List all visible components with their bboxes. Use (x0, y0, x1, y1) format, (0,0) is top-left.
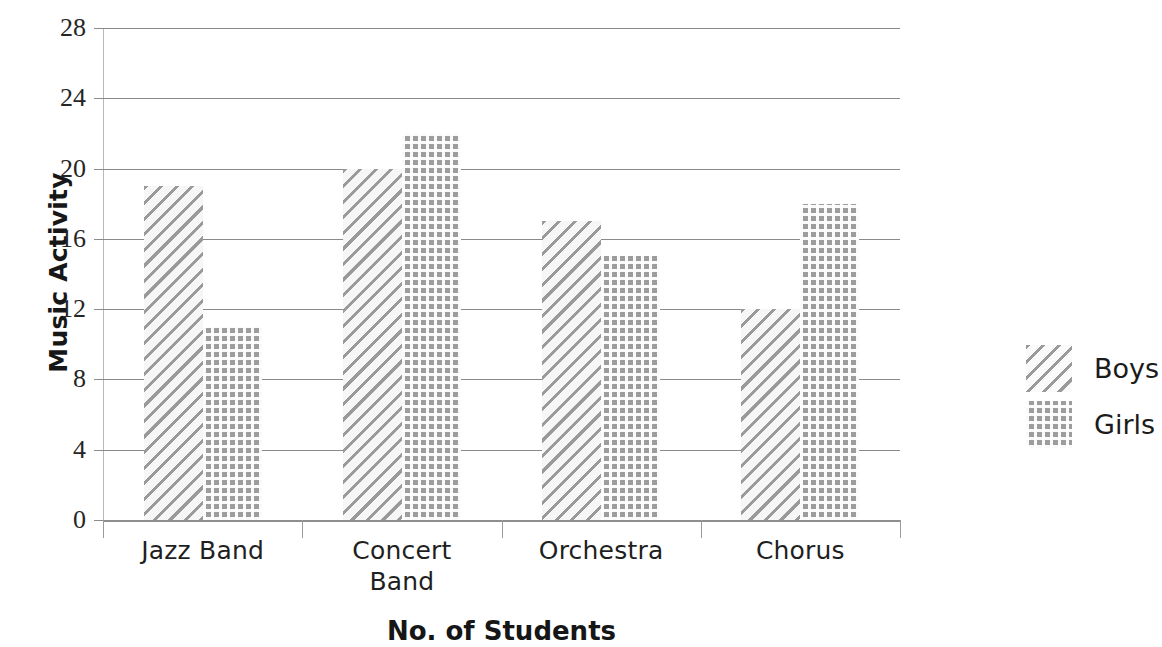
gridline (103, 28, 900, 29)
legend-swatch-boys-icon (1026, 345, 1072, 392)
x-tick-mark (900, 520, 901, 538)
y-tick-label: 12 (28, 296, 86, 322)
gridline (103, 98, 900, 99)
y-tick-mark (94, 379, 104, 380)
x-tick-label-line: Concert (302, 536, 501, 567)
x-tick-label: Orchestra (502, 536, 701, 567)
bar-chorus-girls[interactable] (800, 204, 859, 520)
bar-chorus-boys[interactable] (741, 309, 800, 520)
bar-concert-band-girls[interactable] (402, 133, 461, 520)
y-tick-label: 16 (28, 226, 86, 252)
gridline (103, 169, 900, 170)
x-tick-label: ConcertBand (302, 536, 501, 597)
legend-label-boys: Boys (1094, 353, 1159, 384)
legend-item-boys[interactable]: Boys (1026, 340, 1159, 396)
y-tick-mark (94, 28, 104, 29)
legend-item-girls[interactable]: Girls (1026, 396, 1159, 452)
bar-orchestra-boys[interactable] (542, 221, 601, 520)
y-tick-mark (94, 450, 104, 451)
bar-orchestra-girls[interactable] (601, 256, 660, 520)
bar-chart: Music Activity 0481216202428 Jazz BandCo… (0, 0, 1162, 647)
plot-area (103, 28, 900, 520)
gridline (103, 239, 900, 240)
bar-jazz-band-girls[interactable] (203, 327, 262, 520)
y-tick-label: 0 (28, 507, 86, 533)
legend: Boys Girls (1026, 340, 1159, 452)
x-tick-label: Jazz Band (103, 536, 302, 567)
y-axis-title: Music Activity (44, 153, 73, 393)
x-tick-label-line: Orchestra (502, 536, 701, 567)
x-axis-title: No. of Students (103, 616, 900, 646)
bar-jazz-band-boys[interactable] (144, 186, 203, 520)
y-tick-label: 28 (28, 15, 86, 41)
y-tick-label: 20 (28, 156, 86, 182)
x-tick-label-line: Chorus (701, 536, 900, 567)
x-tick-label: Chorus (701, 536, 900, 567)
bar-concert-band-boys[interactable] (343, 169, 402, 520)
y-tick-label: 8 (28, 366, 86, 392)
x-tick-label-line: Jazz Band (103, 536, 302, 567)
legend-label-girls: Girls (1094, 409, 1155, 440)
y-tick-mark (94, 169, 104, 170)
y-tick-mark (94, 309, 104, 310)
x-tick-label-line: Band (302, 567, 501, 598)
y-tick-label: 24 (28, 85, 86, 111)
legend-swatch-girls-icon (1026, 401, 1072, 448)
y-tick-mark (94, 98, 104, 99)
y-axis-line (103, 28, 104, 520)
y-tick-label: 4 (28, 437, 86, 463)
y-tick-mark (94, 239, 104, 240)
